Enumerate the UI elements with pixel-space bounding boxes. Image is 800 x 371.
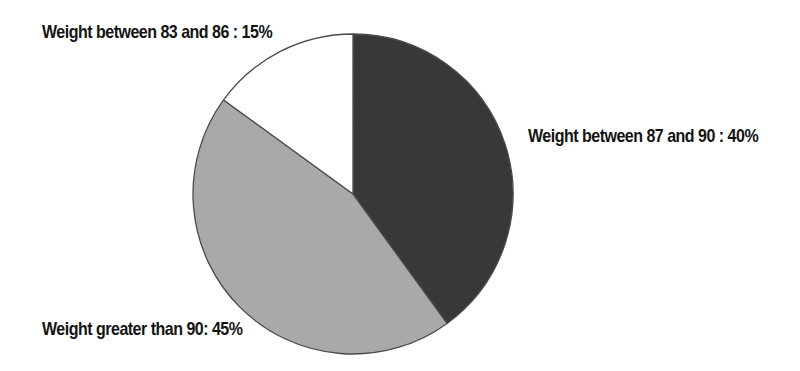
pie-chart bbox=[0, 0, 800, 371]
slice-label-weight-greater-than-90: Weight greater than 90: 45% bbox=[42, 320, 242, 339]
pie-slices-group bbox=[193, 34, 513, 354]
pie-chart-figure: Weight between 83 and 86 : 15% Weight be… bbox=[0, 0, 800, 371]
slice-label-weight-between-87-and-90: Weight between 87 and 90 : 40% bbox=[528, 127, 758, 146]
slice-label-weight-between-83-and-86: Weight between 83 and 86 : 15% bbox=[42, 23, 272, 42]
